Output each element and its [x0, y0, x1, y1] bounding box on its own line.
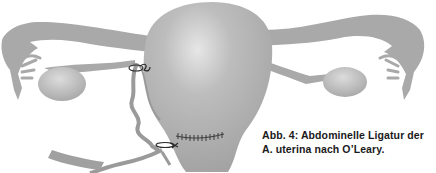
- left-ovary: [38, 67, 86, 101]
- right-ovarian-ligament: [262, 60, 330, 84]
- figure-caption: Abb. 4: Abdominelle Ligatur der A. uteri…: [262, 128, 436, 156]
- left-fimbriae: [22, 56, 40, 78]
- caption-line-1: Abb. 4: Abdominelle Ligatur der: [262, 128, 436, 142]
- uterus: [144, 2, 273, 172]
- figure: Abb. 4: Abdominelle Ligatur der A. uteri…: [0, 0, 436, 173]
- vessel-stump: [48, 150, 104, 170]
- right-fimbriae: [380, 56, 398, 78]
- artery-branch-lower: [90, 150, 162, 173]
- right-ovary: [323, 67, 367, 97]
- caption-line-2: A. uterina nach O’Leary.: [262, 142, 436, 156]
